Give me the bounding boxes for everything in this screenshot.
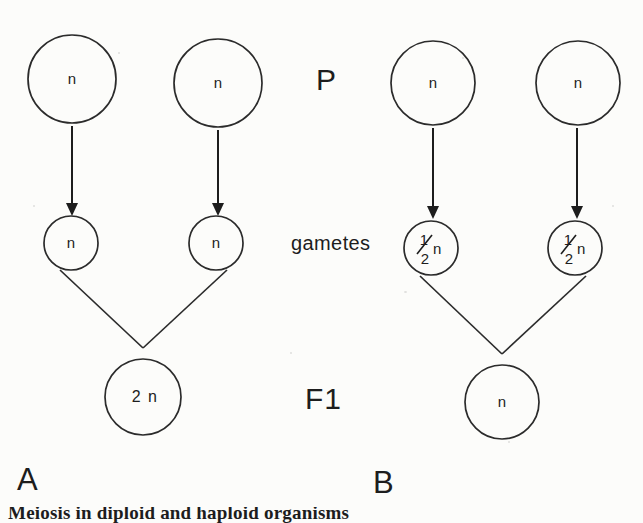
panel-b-arrow-right: [571, 128, 583, 219]
panel-b-parent-left-cell: n: [391, 41, 475, 125]
panel-b-offspring-cell: n: [465, 365, 539, 439]
arrow-head-icon: [427, 206, 439, 219]
stage-label-parent: P: [316, 63, 337, 96]
panel-a-offspring-cell: 2 n: [105, 359, 181, 435]
panel-b-parent-right-cell: n: [536, 41, 620, 125]
panel-a-parent-right-cell: n: [174, 39, 262, 127]
cell-ploidy-label: n: [67, 234, 75, 251]
panel-a-arrow-right: [212, 130, 224, 216]
figure-caption-clip: Meiosis in diploid and haploid organisms: [0, 507, 643, 523]
fraction-denominator: 2: [565, 250, 573, 267]
fraction-suffix-label: n: [433, 240, 441, 257]
panel-a-parent-left-cell: n: [28, 35, 116, 123]
fusion-connector-right: [502, 276, 586, 354]
cell-ploidy-label: n: [429, 74, 437, 91]
cell-circle: [404, 221, 458, 275]
figure-container: n n n n 2 n: [0, 0, 643, 523]
cell-ploidy-label: n: [574, 74, 582, 91]
panel-b-gamete-left-cell: 1 2 n: [404, 221, 458, 275]
panel-a-gamete-left-cell: n: [44, 216, 98, 270]
figure-caption: Meiosis in diploid and haploid organisms: [8, 507, 349, 523]
arrow-head-icon: [66, 203, 78, 216]
panel-b-gamete-right-cell: 1 2 n: [548, 221, 602, 275]
stage-label-gametes: gametes: [291, 232, 371, 254]
panel-a-gamete-right-cell: n: [189, 216, 243, 270]
arrow-head-icon: [571, 206, 583, 219]
fusion-connector-left: [60, 270, 143, 348]
panel-a-arrow-left: [66, 126, 78, 216]
stage-label-offspring: F1: [305, 382, 342, 415]
fusion-connector-left: [420, 276, 502, 354]
panel-letter-a: A: [17, 462, 38, 497]
panel-b-arrow-left: [427, 128, 439, 219]
cell-circle: [548, 221, 602, 275]
cell-ploidy-label: n: [498, 393, 506, 410]
cell-ploidy-label: n: [68, 70, 76, 87]
cell-ploidy-label: n: [212, 234, 220, 251]
panel-letter-b: B: [373, 465, 394, 500]
cell-ploidy-label: 2 n: [132, 388, 159, 405]
fusion-connector-right: [143, 270, 227, 348]
arrow-head-icon: [212, 203, 224, 216]
fraction-suffix-label: n: [577, 240, 585, 257]
diagram-canvas: n n n n 2 n: [0, 0, 643, 523]
cell-ploidy-label: n: [214, 74, 222, 91]
fraction-denominator: 2: [421, 250, 429, 267]
